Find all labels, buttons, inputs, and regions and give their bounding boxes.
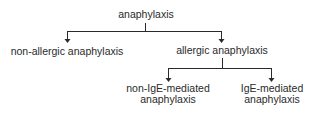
node-non-allergic-anaphylaxis: non-allergic anaphylaxis [8, 46, 126, 57]
node-allergic-anaphylaxis: allergic anaphylaxis [172, 45, 272, 56]
node-label: non-allergic anaphylaxis [11, 45, 124, 57]
node-ige-mediated-anaphylaxis: IgE-mediated anaphylaxis [238, 83, 306, 105]
node-non-ige-mediated-anaphylaxis: non-IgE-mediated anaphylaxis [124, 83, 212, 105]
node-anaphylaxis: anaphylaxis [105, 9, 187, 20]
node-label: anaphylaxis [118, 8, 173, 20]
node-label-line2: anaphylaxis [238, 94, 306, 105]
arrow-head-icon [65, 39, 71, 43]
node-label: allergic anaphylaxis [176, 44, 268, 56]
node-label-line2: anaphylaxis [124, 94, 212, 105]
arrow-head-icon [219, 39, 225, 43]
